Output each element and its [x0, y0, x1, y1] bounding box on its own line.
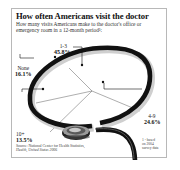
- label-1to3: 1-3 45.8%: [54, 43, 71, 55]
- label-none-value: 16.1%: [15, 71, 32, 77]
- source-note: Source: National Center for Health Stati…: [16, 144, 85, 153]
- label-10plus-value: 13.5%: [16, 137, 33, 143]
- stethoscope-chestpiece-icon: [62, 125, 90, 140]
- label-4to9-value: 24.6%: [144, 119, 161, 125]
- label-10plus: 10+ 13.5%: [16, 131, 33, 143]
- divider-none-10plus: [36, 91, 92, 103]
- divider-none-1to3: [69, 68, 92, 91]
- label-1to3-value: 45.8%: [54, 49, 71, 55]
- source-line-2: Health, United States 2006: [16, 148, 85, 152]
- footnote-line-3: survey data: [142, 146, 158, 150]
- label-none: None 16.1%: [15, 65, 32, 77]
- label-4to9: 4-9 24.6%: [144, 113, 161, 125]
- leader-4to9: [104, 83, 142, 89]
- leader-dots: [42, 56, 104, 90]
- leader-none: [20, 54, 34, 58]
- footnote: 1 - based on 2004 survey data: [142, 138, 158, 151]
